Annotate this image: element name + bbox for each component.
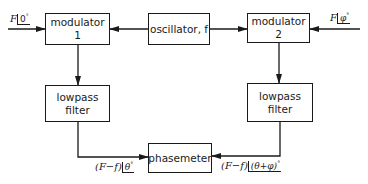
oscillator-label: oscillator, f [150, 23, 208, 36]
modulator-2-block: modulator 2 [247, 13, 310, 43]
oscillator-block: oscillator, f [148, 13, 210, 45]
lpf-right-to-phasemeter-arrow [212, 122, 280, 156]
input-left-signal-label: F0° [10, 12, 30, 24]
lpf-left-to-phasemeter-arrow [78, 122, 148, 157]
modulator-1-block: modulator 1 [45, 13, 110, 45]
output-left-signal-label: (F−f)θ° [95, 160, 134, 172]
lowpass-left-label-line2: filter [65, 104, 89, 117]
modulator-2-label: modulator 2 [248, 15, 309, 41]
phasemeter-label: phasemeter [148, 152, 211, 165]
lowpass-right-label-line1: lowpass [259, 90, 301, 103]
lowpass-left-label-line1: lowpass [57, 91, 99, 104]
lowpass-right-label-line2: filter [268, 103, 292, 116]
phasemeter-block: phasemeter [148, 143, 212, 173]
phase-measurement-block-diagram: modulator 1 oscillator, f modulator 2 lo… [0, 0, 368, 184]
modulator-1-label: modulator 1 [46, 16, 109, 42]
output-right-signal-label: (F−f)(θ+φ)° [221, 159, 281, 171]
lowpass-filter-right-block: lowpass filter [247, 83, 313, 122]
lowpass-filter-left-block: lowpass filter [45, 85, 110, 122]
input-right-signal-label: Fφ° [330, 11, 350, 23]
